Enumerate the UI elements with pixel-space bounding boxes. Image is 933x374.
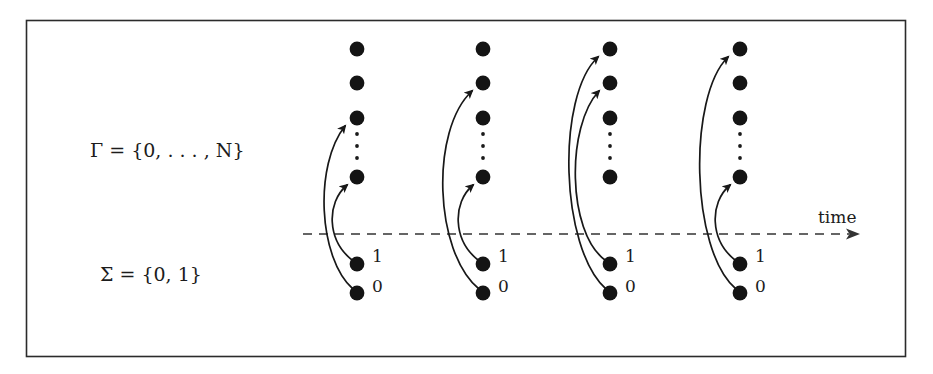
diagram-canvas: 1 0 1 0 bbox=[0, 0, 933, 374]
gamma-node bbox=[350, 42, 365, 57]
sigma-one-label: 1 bbox=[498, 246, 509, 266]
vertical-ellipsis-dot bbox=[355, 156, 359, 160]
gamma-node bbox=[350, 76, 365, 91]
sigma-node-zero bbox=[603, 286, 618, 301]
vertical-ellipsis-dot bbox=[355, 144, 359, 148]
gamma-set-label: Γ = {0, . . . , N} bbox=[90, 139, 244, 161]
sigma-one-label: 1 bbox=[755, 246, 766, 266]
figure-frame bbox=[27, 21, 906, 357]
column-3: 1 0 bbox=[569, 42, 636, 301]
sigma-node-zero bbox=[350, 286, 365, 301]
transition-arc-zero-to-level1 bbox=[700, 57, 736, 289]
vertical-ellipsis-dot bbox=[355, 132, 359, 136]
column-2: 1 0 bbox=[443, 42, 509, 301]
sigma-node-zero bbox=[733, 286, 748, 301]
time-axis-label: time bbox=[818, 207, 856, 227]
gamma-node bbox=[733, 111, 748, 126]
sigma-set-label: Σ = {0, 1} bbox=[100, 263, 202, 285]
sigma-one-label: 1 bbox=[372, 246, 383, 266]
transition-arc-one-to-level4 bbox=[458, 185, 478, 260]
gamma-node bbox=[603, 76, 618, 91]
vertical-ellipsis-dot bbox=[608, 144, 612, 148]
column-4: 1 0 bbox=[700, 42, 766, 301]
vertical-ellipsis-dot bbox=[481, 132, 485, 136]
sigma-node-one bbox=[350, 257, 365, 272]
vertical-ellipsis-dot bbox=[608, 156, 612, 160]
gamma-node bbox=[733, 42, 748, 57]
transition-arc-zero-to-level2 bbox=[443, 91, 479, 289]
figure-container: 1 0 1 0 bbox=[0, 0, 933, 374]
gamma-node bbox=[476, 42, 491, 57]
gamma-node bbox=[350, 111, 365, 126]
sigma-node-one bbox=[603, 257, 618, 272]
gamma-node bbox=[476, 170, 491, 185]
sigma-node-zero bbox=[476, 286, 491, 301]
vertical-ellipsis-dot bbox=[738, 144, 742, 148]
gamma-node bbox=[476, 111, 491, 126]
sigma-node-one bbox=[733, 257, 748, 272]
sigma-one-label: 1 bbox=[625, 246, 636, 266]
vertical-ellipsis-dot bbox=[481, 156, 485, 160]
transition-arc-one-to-level4 bbox=[332, 185, 352, 260]
sigma-zero-label: 0 bbox=[755, 276, 766, 296]
gamma-node bbox=[350, 170, 365, 185]
vertical-ellipsis-dot bbox=[481, 144, 485, 148]
vertical-ellipsis-dot bbox=[738, 132, 742, 136]
sigma-zero-label: 0 bbox=[498, 276, 509, 296]
time-axis bbox=[303, 229, 860, 240]
vertical-ellipsis-dot bbox=[608, 132, 612, 136]
sigma-zero-label: 0 bbox=[372, 276, 383, 296]
gamma-node bbox=[733, 76, 748, 91]
transition-arc-one-to-level4 bbox=[715, 185, 735, 260]
column-1: 1 0 bbox=[324, 42, 383, 301]
vertical-ellipsis-dot bbox=[738, 156, 742, 160]
transition-arc-zero-to-level1 bbox=[569, 57, 606, 289]
sigma-zero-label: 0 bbox=[625, 276, 636, 296]
gamma-node bbox=[603, 42, 618, 57]
gamma-node bbox=[603, 170, 618, 185]
sigma-node-one bbox=[476, 257, 491, 272]
gamma-node bbox=[733, 170, 748, 185]
gamma-node bbox=[603, 111, 618, 126]
gamma-node bbox=[476, 76, 491, 91]
transition-arc-zero-to-level3 bbox=[324, 126, 353, 289]
